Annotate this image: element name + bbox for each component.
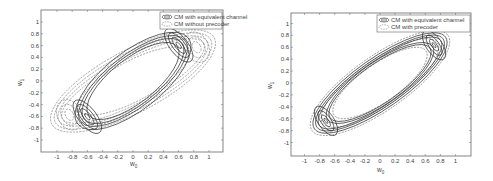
left-plot: -1-0.8-0.6-0.4-0.200.20.40.60.8110.80.60…: [16, 10, 247, 169]
x-tick-label: -0.2: [360, 158, 371, 164]
x-tick-label: -0.4: [345, 158, 356, 164]
y-tick-label: -0.6: [29, 113, 40, 119]
right-solid-contours: [300, 17, 460, 150]
x-tick-label: -0.4: [97, 154, 108, 160]
right-dashed-contours: [297, 13, 464, 152]
left-legend-dashed: CM without precoder: [174, 21, 229, 27]
figure: -1-0.8-0.6-0.4-0.200.20.40.60.8110.80.60…: [0, 0, 493, 181]
y-tick-label: 0.8: [31, 31, 40, 37]
left-axes-box: [41, 10, 223, 152]
y-tick-label: 0.4: [281, 56, 290, 62]
x-tick-label: 0.4: [406, 158, 415, 164]
right-legend-dashed: CM with precoder: [391, 24, 438, 30]
x-tick-label: 0: [378, 158, 382, 164]
y-tick-label: 0.6: [281, 44, 290, 50]
y-tick-label: 1: [286, 21, 290, 27]
y-tick-label: 0.4: [31, 54, 40, 60]
right-plot: -1-0.8-0.6-0.4-0.200.20.40.60.8110.80.60…: [266, 13, 471, 175]
left-legend-solid: CM with equivalent channel: [174, 14, 247, 20]
y-tick-label: -0.8: [279, 128, 290, 134]
x-tick-label: 0.2: [144, 154, 153, 160]
x-tick-label: -1: [54, 154, 60, 160]
y-tick-label: -0.2: [279, 92, 290, 98]
x-tick-label: 0.4: [159, 154, 168, 160]
x-tick-label: -0.6: [330, 158, 341, 164]
y-tick-label: 0.6: [31, 43, 40, 49]
right-xlabel: w0: [376, 166, 385, 175]
x-tick-label: -1: [302, 158, 308, 164]
x-tick-label: -0.6: [82, 154, 93, 160]
x-tick-label: -0.8: [314, 158, 325, 164]
x-tick-label: 1: [207, 154, 211, 160]
left-legend: CM with equivalent channel CM without pr…: [160, 12, 247, 29]
right-ylabel: w1: [266, 81, 275, 90]
y-tick-label: -1: [284, 140, 290, 146]
right-legend-solid: CM with equivalent channel: [391, 17, 464, 23]
y-tick-label: -1: [34, 137, 40, 143]
left-ylabel: w1: [16, 78, 25, 87]
y-tick-label: 0: [286, 80, 290, 86]
y-tick-label: -0.4: [29, 102, 40, 108]
y-tick-label: 0.2: [31, 66, 40, 72]
x-tick-label: 1: [454, 158, 458, 164]
x-tick-label: -0.8: [67, 154, 78, 160]
y-tick-label: 0.2: [281, 68, 290, 74]
left-dashed-contours: [37, 10, 229, 151]
x-tick-label: -0.2: [113, 154, 124, 160]
y-tick-label: 0.8: [281, 32, 290, 38]
y-tick-label: -0.4: [279, 104, 290, 110]
left-ticks: -1-0.8-0.6-0.4-0.200.20.40.60.8110.80.60…: [29, 10, 223, 160]
right-legend: CM with equivalent channel CM with preco…: [377, 15, 470, 32]
y-tick-label: -0.6: [279, 116, 290, 122]
right-ticks: -1-0.8-0.6-0.4-0.200.20.40.60.8110.80.60…: [279, 13, 471, 164]
x-tick-label: 0.6: [421, 158, 430, 164]
left-xlabel: w0: [129, 160, 138, 169]
y-tick-label: -0.8: [29, 125, 40, 131]
y-tick-label: 0: [36, 78, 40, 84]
x-tick-label: 0.6: [174, 154, 183, 160]
y-tick-label: -0.2: [29, 90, 40, 96]
x-tick-label: 0.2: [391, 158, 400, 164]
x-tick-label: 0.8: [436, 158, 445, 164]
y-tick-label: 1: [36, 19, 40, 25]
x-tick-label: 0.8: [190, 154, 199, 160]
